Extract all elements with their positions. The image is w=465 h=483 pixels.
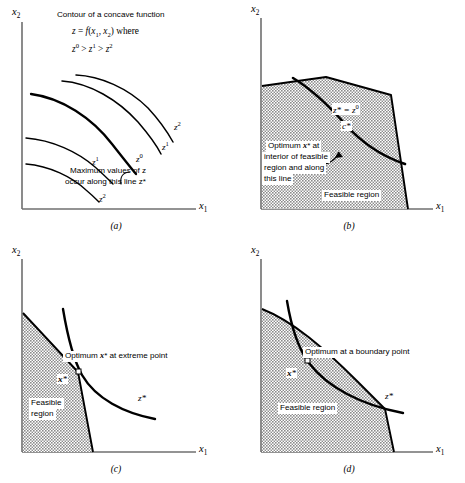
panel-a-caption: (a) <box>0 220 232 231</box>
panel-a-note-line1: Maximum values of z <box>26 166 146 177</box>
panel-c-caption: (c) <box>0 463 232 474</box>
panel-b-caption: (b) <box>233 220 465 231</box>
curve-label-z2-lower: z2 <box>99 192 106 204</box>
optimum-point-marker <box>76 369 81 374</box>
panel-c-note: Optimum x* at extreme point <box>63 351 170 362</box>
y-axis-label: x2 <box>12 6 20 20</box>
panel-a-inequality: z0 > z1 > z2 <box>72 42 113 54</box>
x-axis-label: x1 <box>436 200 444 214</box>
optimum-point-label: x* <box>286 368 297 378</box>
panel-d-drawing <box>233 241 465 482</box>
x-axis-label: x1 <box>199 443 207 457</box>
feasible-region-label: Feasible region <box>278 403 337 414</box>
contour-value-label: z* = z0 <box>332 103 360 115</box>
curve-label-z2-upper: z2 <box>174 120 181 132</box>
panel-b-note-line4: this line <box>262 174 293 185</box>
panel-a: x2 x1 Contour of a concave function z = … <box>0 0 232 241</box>
panel-d: x2 x1 Optimum at a boundary point x* Fea… <box>233 241 465 482</box>
x-axis-label: x1 <box>199 200 207 214</box>
panel-a-function-definition: z = f(x1, x2) where <box>72 26 139 38</box>
panel-b: x2 x1 z* = z0 c* Optimum x* at interior … <box>233 0 465 241</box>
curve-label-z1-upper: z1 <box>162 140 169 152</box>
y-axis-label: x2 <box>12 244 20 258</box>
z-star-curve-label: z* <box>385 391 393 401</box>
panel-b-note-line3: region and along <box>262 163 326 174</box>
y-axis-label: x2 <box>251 3 259 17</box>
feasible-region-label-line1: Feasible <box>29 398 64 409</box>
panel-c: x2 x1 Optimum x* at extreme point x* Fea… <box>0 241 232 482</box>
panel-a-note-line2: occur along this line z* <box>26 177 146 188</box>
panel-b-note-line1: Optimum x* at <box>266 141 321 152</box>
figure-container: x2 x1 Contour of a concave function z = … <box>0 0 465 483</box>
curve-label-z0: z0 <box>136 152 143 164</box>
z-star-curve-label: z* <box>138 393 146 403</box>
panel-b-note-line2: interior of feasible <box>262 152 330 163</box>
feasible-region-label-line2: region <box>29 409 56 420</box>
panel-d-note: Optimum at a boundary point <box>303 347 411 358</box>
c-star-label: c* <box>341 121 352 131</box>
panel-a-heading-line1: Contour of a concave function <box>57 10 165 21</box>
optimum-point-marker <box>305 358 310 363</box>
optimum-point-label: x* <box>57 374 68 384</box>
feasible-region-label: Feasible region <box>322 190 381 201</box>
panel-d-caption: (d) <box>233 463 465 474</box>
x-axis-label: x1 <box>436 443 444 457</box>
y-axis-label: x2 <box>251 244 259 258</box>
